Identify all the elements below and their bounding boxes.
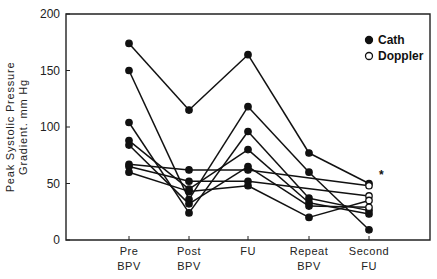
- cath-point: [245, 183, 251, 189]
- series-line: [126, 169, 372, 221]
- doppler-point: [366, 204, 372, 210]
- x-tick-label: Second: [349, 245, 389, 257]
- x-tick-label: Pre: [120, 245, 139, 257]
- legend-label: Cath: [378, 33, 405, 47]
- y-axis-label: Peak Systolic PressureGradient. mm Hg: [4, 62, 29, 193]
- series-segment: [248, 55, 309, 153]
- doppler-point: [366, 197, 372, 203]
- series-segment: [248, 167, 309, 207]
- doppler-marker-icon: [366, 53, 373, 60]
- cath-point: [186, 210, 192, 216]
- y-tick-label: 50: [47, 177, 61, 191]
- cath-point: [366, 211, 372, 217]
- cath-point: [186, 188, 192, 194]
- series-segment: [309, 172, 369, 230]
- y-tick-label: 200: [40, 7, 60, 21]
- cath-point: [245, 51, 251, 57]
- cath-point: [126, 169, 132, 175]
- annotations: *: [379, 168, 384, 182]
- cath-point: [245, 146, 251, 152]
- cath-point: [186, 201, 192, 207]
- y-axis-label-line: Gradient. mm Hg: [17, 79, 29, 175]
- x-tick-label: BPV: [117, 260, 141, 272]
- series-segment: [189, 55, 248, 110]
- significance-asterisk: *: [379, 168, 384, 182]
- plot-frame: [66, 14, 430, 240]
- x-tick-label: BPV: [177, 260, 201, 272]
- series-segment: [129, 43, 189, 110]
- cath-point: [126, 119, 132, 125]
- x-tick-label: BPV: [297, 260, 321, 272]
- cath-point: [306, 150, 312, 156]
- x-tick-label: Repeat: [290, 245, 328, 257]
- cath-point: [245, 128, 251, 134]
- cath-point: [126, 40, 132, 46]
- cath-point: [245, 167, 251, 173]
- cath-point: [186, 178, 192, 184]
- data-series: [126, 40, 372, 233]
- cath-point: [126, 142, 132, 148]
- x-tick-label: FU: [361, 260, 377, 272]
- cath-point: [245, 103, 251, 109]
- y-tick-label: 0: [53, 233, 60, 247]
- line-chart: 050100150200 PreBPVPostBPVFURepeatBPVSec…: [0, 0, 437, 279]
- cath-point: [306, 203, 312, 209]
- cath-point: [306, 169, 312, 175]
- y-tick-label: 100: [40, 120, 60, 134]
- cath-marker-icon: [366, 37, 373, 44]
- x-axis-ticks: PreBPVPostBPVFURepeatBPVSecondFU: [117, 236, 389, 272]
- cath-point: [306, 214, 312, 220]
- y-tick-label: 150: [40, 64, 60, 78]
- legend-label: Doppler: [378, 49, 424, 63]
- doppler-point: [366, 183, 372, 189]
- x-tick-label: Post: [177, 245, 201, 257]
- cath-point: [186, 167, 192, 173]
- y-axis-label-line: Peak Systolic Pressure: [4, 62, 16, 193]
- cath-point: [126, 67, 132, 73]
- x-tick-label: FU: [240, 245, 256, 257]
- series-segment: [309, 206, 369, 207]
- legend: CathDoppler: [366, 33, 424, 63]
- axes: [66, 14, 430, 240]
- series-segment: [248, 186, 309, 218]
- cath-point: [186, 107, 192, 113]
- cath-point: [366, 227, 372, 233]
